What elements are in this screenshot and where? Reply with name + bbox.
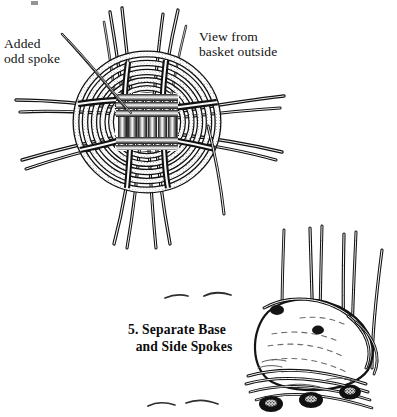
spoke-bundle-bottom-right	[148, 128, 170, 248]
rim-knot-clusters	[259, 305, 361, 412]
label-view-from-basket-outside: View from basket outside	[199, 29, 277, 59]
rim-weavers	[264, 299, 377, 374]
step-caption: 5. Separate Base and Side Spokes	[88, 322, 266, 355]
rim-knot-3	[339, 385, 361, 400]
upright-side-spokes	[282, 226, 382, 368]
rim-knot-1	[259, 396, 283, 412]
base-border-weave	[246, 370, 372, 408]
step-caption-line-2: and Side Spokes	[88, 339, 266, 356]
dash-hint-left	[165, 295, 188, 298]
spoke-bundle-left-upper	[16, 100, 120, 114]
base-shading-hatch	[258, 360, 356, 387]
spoke-bundle-top-left	[104, 8, 134, 124]
base-body	[255, 299, 373, 390]
scan-artifact	[31, 1, 38, 5]
dash-hint-lower	[148, 403, 175, 406]
spoke-bundle-top-right	[152, 10, 186, 122]
rim-knot-mid	[312, 326, 324, 335]
spoke-bundle-right-lower	[176, 134, 282, 160]
upright-spoke-1	[282, 230, 284, 313]
spoke-bundle-right-upper	[176, 96, 284, 118]
spokes-over-rings	[78, 60, 220, 188]
rim-knot-top	[270, 305, 284, 315]
dash-hint-right	[204, 293, 231, 296]
loose-spoke-right-down	[208, 126, 224, 214]
upright-spoke-4	[372, 250, 382, 368]
added-odd-spoke	[62, 34, 131, 113]
label-added-odd-spoke: Added odd spoke	[4, 36, 60, 66]
weaver-rings	[76, 54, 218, 190]
figure-side-spokes-upright	[246, 226, 382, 412]
upright-spoke-3	[343, 232, 356, 350]
rim-knot-2	[299, 392, 323, 408]
spoke-bundle-left-lower	[22, 136, 124, 169]
illustration-page: Added odd spoke View from basket outside…	[0, 0, 397, 417]
dash-hint-lower2	[186, 400, 218, 404]
upright-spoke-2	[310, 226, 322, 332]
spoke-bundle-bottom-left	[114, 128, 141, 248]
step-caption-line-1: 5. Separate Base	[128, 322, 226, 337]
woven-core	[114, 92, 180, 152]
